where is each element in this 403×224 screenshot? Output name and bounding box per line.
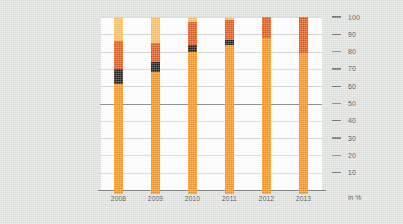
bar-segment-segment-2-black-2008	[114, 69, 123, 85]
y-axis-unit-label: in %	[348, 194, 361, 201]
bar-segment-segment-3-dark-orange-2013	[299, 17, 308, 53]
y-tick-40: 40	[332, 116, 394, 126]
bar-segment-segment-2-black-2009	[151, 62, 160, 72]
y-tick-80: 80	[332, 47, 394, 57]
gridline-80	[100, 52, 322, 53]
y-tick-dash-10	[332, 172, 341, 173]
gridline-30	[100, 138, 322, 139]
gridline-50	[100, 104, 322, 105]
x-axis-label-2013: 2013	[284, 195, 324, 202]
x-axis-line	[98, 190, 326, 191]
y-tick-dash-50	[332, 103, 341, 104]
bar-segment-segment-3-dark-orange-2012	[262, 17, 271, 38]
y-tick-label-80: 80	[348, 48, 356, 55]
bar-segment-segment-4-light-orange-2008	[114, 17, 123, 41]
y-tick-20: 20	[332, 150, 394, 160]
y-tick-dash-30	[332, 137, 341, 138]
bar-segment-segment-2-black-2010	[188, 45, 197, 52]
gridline-20	[100, 155, 322, 156]
y-tick-dash-20	[332, 155, 341, 156]
y-tick-dash-60	[332, 86, 341, 87]
chart-figure: 200820092010201120122013 100908070605040…	[0, 0, 403, 224]
x-tick-2012	[262, 190, 271, 194]
y-tick-label-60: 60	[348, 83, 356, 90]
bar-segment-segment-1-orange-2009	[151, 72, 160, 190]
bar-2012	[262, 17, 271, 190]
x-tick-2008	[114, 190, 123, 194]
y-tick-90: 90	[332, 29, 394, 39]
gridline-40	[100, 121, 322, 122]
x-tick-2011	[225, 190, 234, 194]
bar-segment-segment-1-orange-2008	[114, 84, 123, 190]
y-tick-label-20: 20	[348, 152, 356, 159]
y-tick-label-70: 70	[348, 65, 356, 72]
x-axis-label-2009: 2009	[136, 195, 176, 202]
bar-segment-segment-3-dark-orange-2011	[225, 20, 234, 39]
y-tick-label-100: 100	[348, 14, 360, 21]
y-tick-dash-100	[332, 16, 341, 17]
y-tick-60: 60	[332, 81, 394, 91]
bar-2010	[188, 17, 197, 190]
bar-segment-segment-1-orange-2012	[262, 38, 271, 190]
y-tick-100: 100	[332, 12, 394, 22]
bar-segment-segment-3-dark-orange-2009	[151, 43, 160, 62]
y-tick-10: 10	[332, 168, 394, 178]
x-axis-label-2010: 2010	[173, 195, 213, 202]
gridline-90	[100, 34, 322, 35]
bar-segment-segment-1-orange-2011	[225, 45, 234, 190]
bar-2013	[299, 17, 308, 190]
x-axis-label-2011: 2011	[210, 195, 250, 202]
y-tick-label-90: 90	[348, 31, 356, 38]
y-tick-dash-40	[332, 120, 341, 121]
y-tick-dash-80	[332, 51, 341, 52]
x-tick-2013	[299, 190, 308, 194]
gridline-100	[100, 17, 322, 18]
bar-segment-segment-1-orange-2013	[299, 53, 308, 190]
y-tick-label-40: 40	[348, 117, 356, 124]
y-tick-70: 70	[332, 64, 394, 74]
gridline-60	[100, 86, 322, 87]
x-tick-2009	[151, 190, 160, 194]
gridline-10	[100, 173, 322, 174]
y-tick-dash-70	[332, 68, 341, 69]
gridline-70	[100, 69, 322, 70]
y-tick-label-30: 30	[348, 135, 356, 142]
x-axis-label-2012: 2012	[247, 195, 287, 202]
bar-2009	[151, 17, 160, 190]
bar-segment-segment-3-dark-orange-2008	[114, 41, 123, 69]
y-tick-label-50: 50	[348, 100, 356, 107]
y-tick-dash-90	[332, 34, 341, 35]
y-tick-50: 50	[332, 99, 394, 109]
bar-segment-segment-1-orange-2010	[188, 52, 197, 190]
y-tick-label-10: 10	[348, 169, 356, 176]
x-tick-2010	[188, 190, 197, 194]
bar-2011	[225, 17, 234, 190]
x-axis-label-2008: 2008	[99, 195, 139, 202]
bar-2008	[114, 17, 123, 190]
bar-segment-segment-4-light-orange-2009	[151, 17, 160, 43]
bar-segment-segment-3-dark-orange-2010	[188, 22, 197, 44]
y-tick-30: 30	[332, 133, 394, 143]
